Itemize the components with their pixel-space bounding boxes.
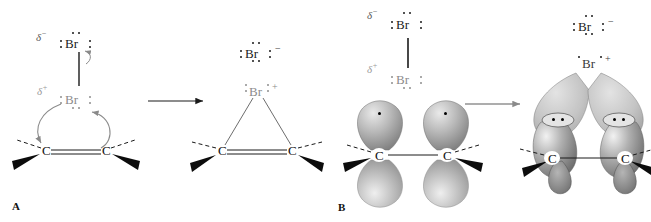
lone-pair-dot bbox=[72, 32, 74, 34]
lone-pair-dot bbox=[269, 56, 271, 58]
lone-pair-dot bbox=[391, 76, 393, 78]
figure-canvas: δ− Br δ+ Br C C Br − Br + C C A δ− Br δ+… bbox=[0, 0, 651, 222]
lone-pair-dot bbox=[573, 29, 575, 31]
lone-pair-dot bbox=[60, 102, 62, 104]
panelB-delta-positive-bottom: δ+ bbox=[367, 62, 378, 75]
lone-pair-dot bbox=[89, 102, 91, 104]
lone-pair-dot bbox=[89, 46, 91, 48]
lone-pair-dot bbox=[60, 96, 62, 98]
panelA-bromide-symbol: Br bbox=[245, 47, 258, 60]
panelB-carbon-right: C bbox=[443, 149, 452, 162]
lone-pair-dot bbox=[78, 107, 80, 109]
panelB-br-bottom-symbol: Br bbox=[396, 73, 409, 86]
panelA-bromonium-symbol: Br bbox=[249, 85, 262, 98]
p-orbital-electron-dot bbox=[378, 112, 381, 115]
panelA-delta-positive-bottom: δ+ bbox=[37, 84, 48, 97]
lone-pair-dot bbox=[420, 76, 422, 78]
figure-vector-layer bbox=[0, 0, 651, 222]
lone-pair-dot bbox=[252, 60, 254, 62]
overlap-electron-dot bbox=[552, 118, 555, 121]
lone-pair-dot bbox=[602, 29, 604, 31]
panelB-bromonium-charge: + bbox=[605, 54, 611, 64]
lone-pair-dot bbox=[591, 33, 593, 35]
lone-pair-dot bbox=[403, 12, 405, 14]
panelB-alkene-orbitals bbox=[343, 101, 483, 208]
lone-pair-dot bbox=[420, 21, 422, 23]
lone-pair-dot bbox=[267, 84, 269, 86]
panelA-ring-carbon-right: C bbox=[288, 144, 297, 157]
lone-pair-dot bbox=[578, 56, 580, 58]
panelA-arrow-br-to-carbon bbox=[38, 104, 61, 143]
panelB-ring-carbon-right: C bbox=[621, 152, 630, 165]
panelA-carbon-right: C bbox=[102, 144, 111, 157]
lone-pair-dot bbox=[240, 50, 242, 52]
lone-pair-dot bbox=[573, 23, 575, 25]
panelB-bromide-symbol: Br bbox=[578, 20, 591, 33]
overlap-electron-dot bbox=[561, 118, 564, 121]
lone-pair-dot bbox=[240, 56, 242, 58]
panelB-br-top-symbol: Br bbox=[396, 18, 409, 31]
panelB-delta-negative-top: δ− bbox=[367, 8, 378, 21]
panelA-carbon-left: C bbox=[42, 144, 51, 157]
panelB-bromonium-orbitals bbox=[520, 73, 651, 194]
lone-pair-dot bbox=[391, 27, 393, 29]
panel-letter-b: B bbox=[338, 202, 345, 213]
lone-pair-dot bbox=[403, 87, 405, 89]
lone-pair-dot bbox=[420, 27, 422, 29]
lone-pair-dot bbox=[245, 84, 247, 86]
overlap-electron-dot bbox=[622, 118, 625, 121]
panelA-br-bottom-symbol: Br bbox=[65, 93, 78, 106]
panelA-alkene-skeleton bbox=[12, 140, 140, 170]
lone-pair-dot bbox=[245, 90, 247, 92]
lone-pair-dot bbox=[420, 82, 422, 84]
lone-pair-dot bbox=[391, 82, 393, 84]
panelA-arrow-br-br-heterolysis bbox=[85, 51, 90, 64]
lone-pair-dot bbox=[267, 90, 269, 92]
lone-pair-dot bbox=[252, 42, 254, 44]
panel-letter-a: A bbox=[12, 201, 20, 212]
panelB-ring-carbon-left: C bbox=[548, 152, 557, 165]
panelA-bromonium-ring bbox=[190, 98, 324, 172]
lone-pair-dot bbox=[591, 15, 593, 17]
lone-pair-dot bbox=[258, 42, 260, 44]
lone-pair-dot bbox=[60, 46, 62, 48]
lone-pair-dot bbox=[269, 50, 271, 52]
overlap-electron-dot bbox=[613, 118, 616, 121]
lone-pair-dot bbox=[72, 107, 74, 109]
p-orbital-electron-dot bbox=[444, 112, 447, 115]
panelA-delta-negative-top: δ− bbox=[36, 30, 47, 43]
lone-pair-dot bbox=[391, 21, 393, 23]
lone-pair-dot bbox=[585, 33, 587, 35]
lone-pair-dot bbox=[602, 23, 604, 25]
lone-pair-dot bbox=[409, 12, 411, 14]
panelA-bromide-charge: − bbox=[275, 44, 281, 54]
panelA-bromonium-charge: + bbox=[272, 82, 278, 92]
lone-pair-dot bbox=[78, 32, 80, 34]
panelB-bromonium-symbol: Br bbox=[582, 57, 595, 70]
panelB-carbon-left: C bbox=[375, 149, 384, 162]
lone-pair-dot bbox=[89, 96, 91, 98]
panelB-bromide-charge: − bbox=[608, 17, 614, 27]
lone-pair-dot bbox=[89, 40, 91, 42]
lone-pair-dot bbox=[258, 60, 260, 62]
lone-pair-dot bbox=[60, 40, 62, 42]
panelA-ring-carbon-left: C bbox=[218, 144, 227, 157]
panelA-br-top-symbol: Br bbox=[65, 37, 78, 50]
lone-pair-dot bbox=[409, 87, 411, 89]
lone-pair-dot bbox=[600, 56, 602, 58]
lone-pair-dot bbox=[585, 15, 587, 17]
